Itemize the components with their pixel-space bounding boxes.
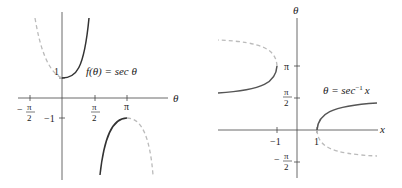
svg-text:π: π [284, 61, 289, 72]
arcsec-solid-right [317, 103, 377, 130]
svg-text:−: − [17, 104, 23, 115]
svg-text:2: 2 [284, 162, 289, 172]
left-graph: θ 1 −1 − π 2 π 2 π f(θ) = sec θ [17, 12, 179, 180]
svg-text:π: π [124, 101, 129, 112]
svg-text:−: − [274, 154, 280, 165]
left-x-axis-label: θ [173, 92, 179, 104]
sec-function-label: f(θ) = sec θ [86, 65, 138, 78]
x-tick-1: 1 [314, 136, 319, 147]
sec-solid-upper [62, 18, 89, 78]
arcsec-solid-left [218, 66, 277, 93]
svg-text:π: π [284, 87, 289, 97]
right-y-axis-label: θ [293, 4, 299, 16]
svg-text:2: 2 [27, 113, 32, 123]
svg-text:π: π [284, 151, 289, 161]
sec-dashed-lower [127, 118, 153, 175]
svg-text:π: π [92, 102, 97, 112]
y-tick-neg1: −1 [44, 113, 55, 124]
figure: θ 1 −1 − π 2 π 2 π f(θ) = sec θ θ x −1 [0, 0, 402, 188]
right-x-axis-label: x [379, 123, 385, 135]
sec-solid-lower [100, 118, 127, 175]
arcsec-function-label: θ = sec−1x [323, 84, 370, 96]
svg-text:2: 2 [284, 98, 289, 108]
y-tick-1: 1 [54, 66, 59, 77]
arcsec-dashed-left [218, 40, 277, 66]
right-graph: θ x −1 1 π π 2 − π 2 θ = sec−1x [218, 4, 385, 178]
arcsec-dashed-right [317, 130, 377, 156]
svg-text:2: 2 [92, 113, 97, 123]
svg-text:π: π [27, 102, 32, 112]
x-tick-neg1: −1 [270, 136, 281, 147]
